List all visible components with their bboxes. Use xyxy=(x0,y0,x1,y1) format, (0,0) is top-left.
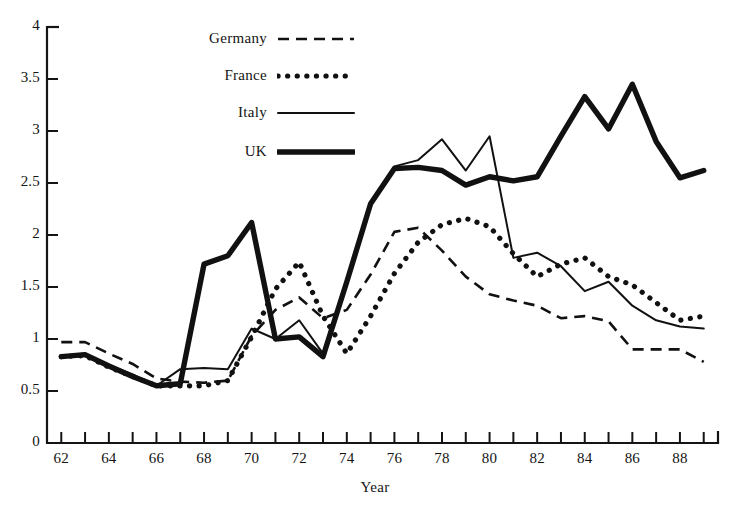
x-axis-tick-label: 84 xyxy=(565,450,605,467)
legend-swatch-dashed xyxy=(277,32,355,46)
legend-swatch-thin xyxy=(277,106,355,120)
y-axis-tick-label: 0 xyxy=(32,433,40,450)
y-axis-tick-label: 2 xyxy=(32,225,40,242)
axis-ticks xyxy=(47,79,704,443)
x-axis-tick-label: 76 xyxy=(374,450,414,467)
legend-item-uk: UK xyxy=(245,143,355,160)
legend-item-france: France xyxy=(224,67,355,84)
x-axis-tick-label: 82 xyxy=(517,450,557,467)
legend-label: France xyxy=(224,67,267,84)
y-axis-tick-label: 1 xyxy=(32,329,40,346)
x-axis-tick-label: 88 xyxy=(660,450,700,467)
legend-swatch-dotted xyxy=(277,69,355,83)
legend-item-germany: Germany xyxy=(209,30,355,47)
x-axis-tick-label: 66 xyxy=(136,450,176,467)
series-line-germany xyxy=(61,228,703,383)
series-line-italy xyxy=(61,136,703,386)
legend-label: UK xyxy=(245,143,267,160)
y-axis-tick-label: 1.5 xyxy=(21,277,40,294)
y-axis-tick-label: 0.5 xyxy=(21,381,40,398)
x-axis-tick-label: 86 xyxy=(612,450,652,467)
x-axis-tick-label: 64 xyxy=(89,450,129,467)
x-axis-tick-label: 62 xyxy=(41,450,81,467)
y-axis-tick-label: 2.5 xyxy=(21,173,40,190)
legend-label: Italy xyxy=(238,104,267,121)
x-axis-title: Year xyxy=(361,479,390,496)
series-line-uk xyxy=(61,84,703,386)
y-axis-tick-label: 4 xyxy=(32,17,40,34)
series-line-france xyxy=(61,218,703,385)
y-axis-tick-label: 3.5 xyxy=(21,69,40,86)
legend-item-italy: Italy xyxy=(238,104,355,121)
chart-container: 00.511.522.533.54 6264666870727476788082… xyxy=(0,0,741,505)
x-axis-tick-label: 78 xyxy=(422,450,462,467)
legend-swatch-thick xyxy=(277,145,355,159)
x-axis-tick-label: 72 xyxy=(279,450,319,467)
x-axis-tick-label: 68 xyxy=(184,450,224,467)
x-axis-tick-label: 70 xyxy=(232,450,272,467)
y-axis-tick-label: 3 xyxy=(32,121,40,138)
chart-plot-area xyxy=(0,0,741,505)
series-lines xyxy=(61,84,703,386)
x-axis-tick-label: 80 xyxy=(470,450,510,467)
legend-label: Germany xyxy=(209,30,267,47)
x-axis-tick-label: 74 xyxy=(327,450,367,467)
